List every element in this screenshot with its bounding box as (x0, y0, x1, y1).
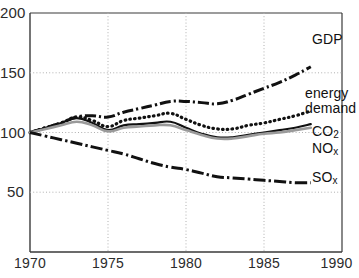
y-tick-150: 150 (0, 65, 24, 80)
y-tick-200: 200 (0, 5, 24, 20)
series-line-nox (30, 122, 311, 139)
series-line-sox (30, 133, 311, 183)
nox-subscript: x (333, 146, 338, 157)
line-chart-plot (0, 0, 359, 278)
sox-subscript: x (332, 175, 337, 186)
y-tick-100: 100 (0, 125, 24, 140)
nox-text: NO (312, 140, 333, 156)
series-layer (30, 67, 311, 183)
co2-subscript: 2 (333, 129, 339, 140)
series-label-gdp: GDP (312, 32, 343, 47)
energy-demand-line2: demand (305, 100, 356, 116)
x-tick-1985: 1985 (236, 256, 292, 270)
sox-text: SO (312, 169, 332, 185)
series-label-nox: NOx (312, 141, 338, 156)
x-tick-1990: 1990 (314, 256, 359, 270)
y-tick-50: 50 (0, 184, 24, 199)
energy-demand-line1: energy (305, 85, 348, 101)
co2-text: CO (312, 123, 333, 139)
x-tick-1975: 1975 (80, 256, 136, 270)
series-label-energy-demand: energy demand (305, 86, 356, 116)
vertical-gridlines (108, 13, 264, 252)
chart-container: 200 150 100 50 1970 1975 1980 1985 1990 … (0, 0, 359, 278)
series-label-sox: SOx (312, 170, 338, 185)
series-label-co2: CO2 (312, 124, 339, 139)
x-tick-1970: 1970 (2, 256, 58, 270)
x-tick-1980: 1980 (158, 256, 214, 270)
